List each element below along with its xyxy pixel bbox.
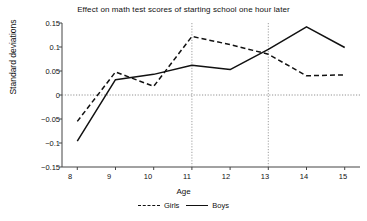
plot-area [0, 0, 367, 221]
dashed-line-icon [138, 205, 160, 206]
series-line-boys [77, 27, 344, 141]
solid-line-icon [186, 205, 208, 206]
legend-entry-boys: Boys [186, 201, 229, 210]
legend-entry-girls: Girls [138, 201, 179, 210]
legend-label-girls: Girls [164, 201, 179, 210]
chart-legend: Girls Boys [0, 201, 367, 210]
legend-label-boys: Boys [212, 201, 229, 210]
chart-container: Effect on math test scores of starting s… [0, 0, 367, 221]
